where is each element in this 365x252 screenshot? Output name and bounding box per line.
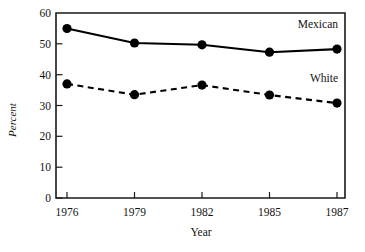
series-label-mexican: Mexican bbox=[298, 18, 338, 30]
x-axis-title: Year bbox=[190, 226, 211, 238]
y-tick-label-50: 50 bbox=[40, 38, 52, 50]
x-axis-tick-labels: 1976 1979 1982 1985 1987 bbox=[56, 206, 349, 218]
series-white-point-1987 bbox=[332, 99, 341, 108]
y-tick-label-20: 20 bbox=[40, 130, 52, 142]
y-tick-label-30: 30 bbox=[40, 100, 52, 112]
y-axis-title: Percent bbox=[6, 102, 18, 138]
series-white bbox=[62, 79, 341, 107]
y-tick-label-0: 0 bbox=[45, 192, 51, 204]
series-label-white: White bbox=[310, 72, 338, 84]
series-white-point-1976 bbox=[62, 79, 71, 88]
chart-canvas: 0 10 20 30 40 50 60 Percent 1976 1979 19… bbox=[0, 0, 365, 252]
series-white-point-1985 bbox=[265, 90, 274, 99]
x-axis-ticks bbox=[67, 192, 337, 198]
y-axis-tick-labels: 0 10 20 30 40 50 60 bbox=[40, 7, 52, 204]
series-mexican-point-1979 bbox=[130, 38, 139, 47]
x-tick-label-1982: 1982 bbox=[191, 206, 214, 218]
x-tick-label-1979: 1979 bbox=[123, 206, 146, 218]
x-tick-label-1976: 1976 bbox=[56, 206, 79, 218]
y-tick-label-10: 10 bbox=[40, 161, 52, 173]
y-axis-ticks bbox=[56, 44, 63, 198]
series-mexican-point-1976 bbox=[62, 24, 71, 33]
y-tick-label-40: 40 bbox=[40, 69, 52, 81]
y-tick-label-60: 60 bbox=[40, 7, 52, 19]
x-tick-label-1985: 1985 bbox=[258, 206, 281, 218]
x-tick-label-1987: 1987 bbox=[326, 206, 349, 218]
series-white-point-1979 bbox=[130, 90, 139, 99]
series-mexican-point-1987 bbox=[332, 45, 341, 54]
series-white-point-1982 bbox=[197, 81, 206, 90]
series-mexican-point-1982 bbox=[197, 40, 206, 49]
line-chart: 0 10 20 30 40 50 60 Percent 1976 1979 19… bbox=[0, 0, 365, 252]
series-mexican-point-1985 bbox=[265, 48, 274, 57]
